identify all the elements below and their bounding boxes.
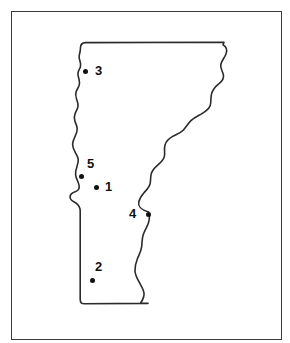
marker-label-1: 1 xyxy=(105,180,112,193)
marker-dot-4 xyxy=(146,212,151,217)
marker-label-2: 2 xyxy=(95,260,102,273)
vermont-locator-figure: 3 5 1 4 2 xyxy=(0,0,290,343)
marker-label-3: 3 xyxy=(95,64,102,77)
marker-dot-5 xyxy=(79,174,84,179)
marker-dot-2 xyxy=(90,278,95,283)
marker-label-5: 5 xyxy=(87,157,94,170)
marker-dot-1 xyxy=(94,185,99,190)
marker-layer: 3 5 1 4 2 xyxy=(0,0,290,343)
marker-dot-3 xyxy=(83,69,88,74)
marker-label-4: 4 xyxy=(129,207,136,220)
